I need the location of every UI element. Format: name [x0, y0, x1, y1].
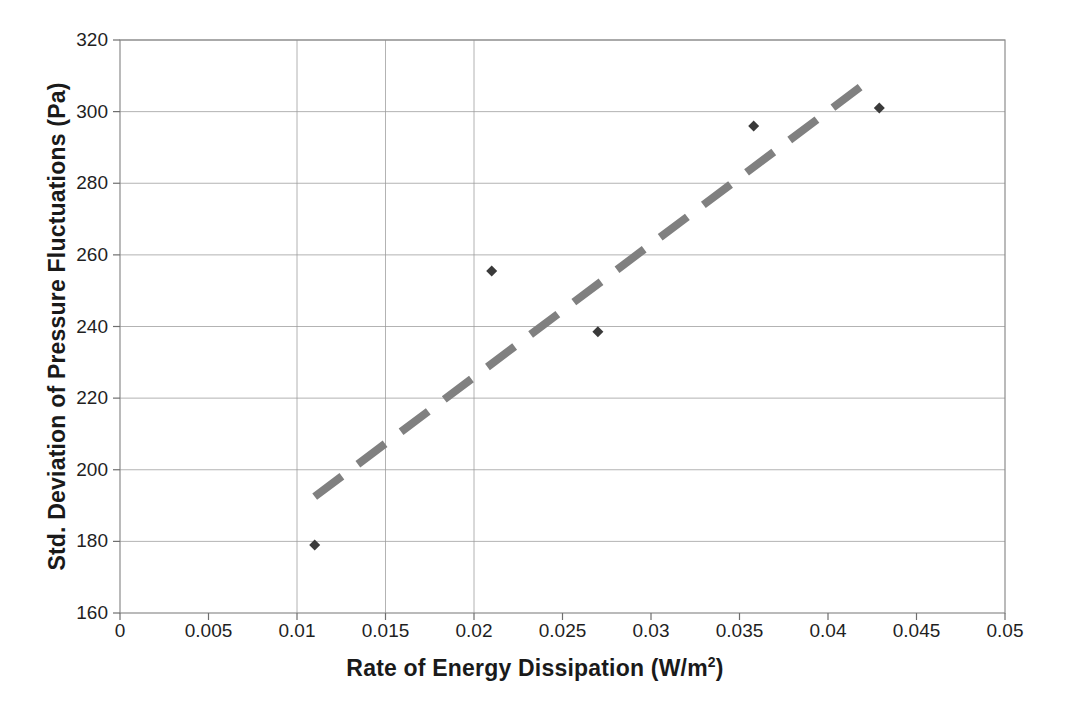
x-tick-label: 0.05 [987, 620, 1024, 642]
y-axis-title: Std. Deviation of Pressure Fluctuations … [44, 27, 71, 627]
x-axis-title: Rate of Energy Dissipation (W/m2) [0, 655, 1070, 682]
x-axis-title-base: Rate of Energy Dissipation (W/m [346, 655, 707, 681]
y-tick-label: 260 [76, 244, 108, 266]
y-tick-label: 240 [76, 316, 108, 338]
plot-canvas [0, 0, 1070, 725]
y-tick-label: 320 [76, 29, 108, 51]
x-tick-label: 0.035 [716, 620, 764, 642]
x-tick-label: 0.045 [893, 620, 941, 642]
x-tick-label: 0.02 [456, 620, 493, 642]
x-tick-label: 0.015 [362, 620, 410, 642]
y-tick-label: 300 [76, 101, 108, 123]
x-axis-title-exponent: 2 [708, 654, 716, 670]
y-tick-label: 200 [76, 459, 108, 481]
x-axis-title-tail: ) [716, 655, 724, 681]
x-tick-label: 0.03 [633, 620, 670, 642]
chart-figure: Rate of Energy Dissipation (W/m2) Std. D… [0, 0, 1070, 725]
x-tick-label: 0.025 [539, 620, 587, 642]
x-tick-label: 0.005 [185, 620, 233, 642]
y-tick-label: 180 [76, 530, 108, 552]
x-tick-label: 0.01 [279, 620, 316, 642]
x-tick-label: 0 [115, 620, 126, 642]
y-tick-label: 160 [76, 602, 108, 624]
x-tick-label: 0.04 [810, 620, 847, 642]
y-tick-label: 220 [76, 387, 108, 409]
y-tick-label: 280 [76, 172, 108, 194]
